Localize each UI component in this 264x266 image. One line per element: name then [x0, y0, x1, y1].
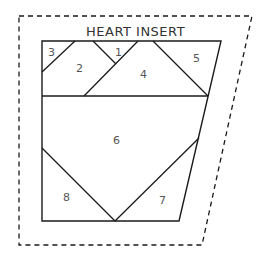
piece-label-3: 3: [48, 46, 55, 59]
seam-3: [42, 41, 75, 72]
piece-label-1: 1: [115, 46, 122, 59]
piece-label-7: 7: [159, 194, 166, 207]
piece-label-5: 5: [193, 52, 200, 65]
seam-5: [153, 41, 208, 96]
piece-label-8: 8: [63, 191, 70, 204]
seam-8: [42, 148, 115, 221]
seam-4-left: [84, 41, 138, 96]
seam-7: [115, 138, 199, 221]
piece-label-6: 6: [113, 134, 120, 147]
seam-1-left: [93, 41, 116, 64]
heart-insert-diagram: HEART INSERT 1 2 3 4 5 6 7 8: [0, 0, 264, 266]
diagram-title: HEART INSERT: [86, 24, 185, 39]
piece-label-4: 4: [140, 68, 147, 81]
piece-label-2: 2: [76, 62, 83, 75]
